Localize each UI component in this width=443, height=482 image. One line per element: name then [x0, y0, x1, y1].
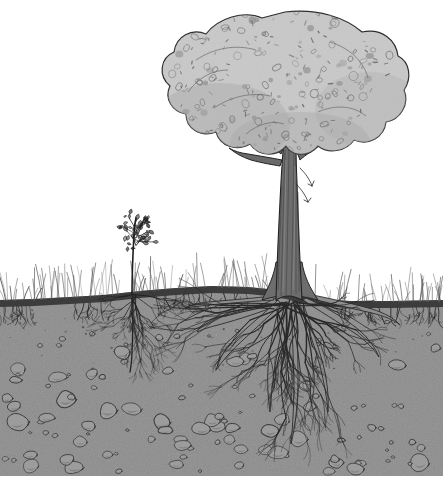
- soil-profile: [0, 280, 443, 480]
- soil-texture: [0, 280, 443, 480]
- bottom-margin: [0, 476, 443, 482]
- illustration-figure: Tree and sapling root systems in soil pr…: [0, 0, 443, 482]
- tree-root-system-illustration: [0, 0, 443, 482]
